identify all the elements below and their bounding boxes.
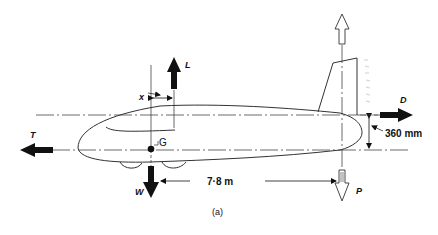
drag-offset-label: 360 mm: [385, 128, 422, 139]
tail-up-arrow-icon: [335, 14, 349, 44]
cg-point: [148, 146, 155, 153]
thrust-label: T: [30, 130, 37, 140]
drag-offset-leader: [372, 126, 383, 131]
lift-arrow-icon: [167, 57, 181, 89]
aircraft-diagram: G L x W T D P 7·8 m 360 mm (a): [0, 0, 438, 235]
tail-hatching: [364, 60, 370, 102]
weight-label: W: [135, 187, 145, 197]
tail-load-label: P: [356, 186, 363, 196]
figure-caption: (a): [212, 207, 223, 217]
fuselage: [78, 105, 362, 168]
cg-marker: [154, 141, 158, 145]
drag-arrow-icon: [380, 108, 413, 122]
drag-label: D: [400, 95, 407, 105]
cg-label: G: [159, 137, 167, 148]
tail-arm-label: 7·8 m: [207, 176, 233, 187]
x-label: x: [138, 92, 145, 102]
thrust-arrow-icon: [20, 143, 53, 157]
weight-arrow-icon: [143, 166, 159, 198]
tail-fin: [318, 58, 357, 115]
x-leader: [148, 93, 160, 95]
lift-label: L: [185, 60, 191, 70]
tail-load-arrow-icon: [335, 170, 349, 201]
